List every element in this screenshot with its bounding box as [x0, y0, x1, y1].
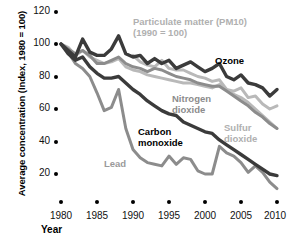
series-label-nitrogen-dioxide: Nitrogen dioxide [172, 93, 211, 115]
series-label-ozone: Ozone [215, 55, 244, 66]
series-label-sulfur-dioxide: Sulfur dioxide [224, 122, 257, 144]
series-line-lead [61, 44, 277, 189]
series-label-particulate-matter: Particulate matter (PM10) (1990 = 100) [133, 16, 247, 38]
series-label-lead: Lead [104, 158, 126, 169]
air-quality-trend-chart: Average concentration (Index, 1980 = 100… [0, 0, 291, 242]
series-label-carbon-monoxide: Carbon monoxide [138, 126, 183, 148]
